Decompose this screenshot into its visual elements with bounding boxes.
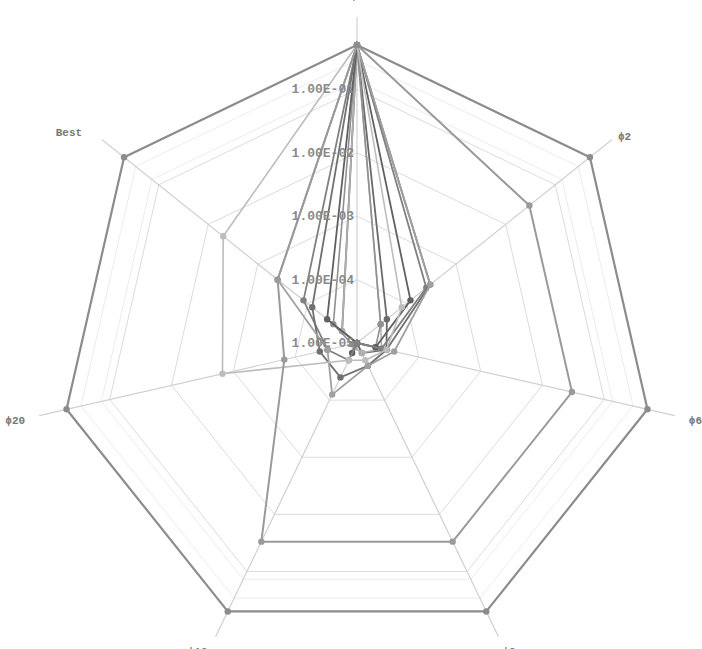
- axis-label: ϕ20: [5, 415, 25, 427]
- data-point: [324, 316, 330, 322]
- data-point: [274, 276, 280, 282]
- data-point: [121, 154, 127, 160]
- data-point: [483, 608, 489, 614]
- data-point: [427, 281, 433, 287]
- data-point: [63, 406, 69, 412]
- data-point: [346, 357, 352, 363]
- data-point: [569, 389, 575, 395]
- data-point: [526, 202, 532, 208]
- radar-tick-labels: 1.00E-051.00E-041.00E-031.00E-021.00E-01: [292, 82, 355, 351]
- data-point: [225, 608, 231, 614]
- data-point: [359, 350, 365, 356]
- data-point: [362, 357, 368, 363]
- tick-label: 1.00E-02: [292, 146, 355, 161]
- data-point: [449, 538, 455, 544]
- data-point: [258, 538, 264, 544]
- data-point: [354, 340, 360, 346]
- tick-label: 1.00E-01: [292, 82, 355, 97]
- data-point: [383, 347, 389, 353]
- data-point: [300, 297, 306, 303]
- tick-label: 1.00E-05: [292, 336, 355, 351]
- data-point: [384, 316, 390, 322]
- tick-label: 1.00E-03: [292, 209, 355, 224]
- radar-axes: [39, 17, 675, 637]
- axis-label: ϕ2: [618, 131, 631, 143]
- data-point: [377, 321, 383, 327]
- data-point: [399, 304, 405, 310]
- data-point: [407, 297, 413, 303]
- data-point: [365, 363, 371, 369]
- radar-chart: 1.00E-051.00E-041.00E-031.00E-021.00E-01…: [0, 0, 702, 649]
- data-point: [644, 406, 650, 412]
- data-point: [587, 154, 593, 160]
- axis-spoke: [216, 343, 357, 637]
- data-point: [220, 233, 226, 239]
- axis-spoke: [357, 343, 498, 637]
- axis-spoke: [102, 140, 357, 343]
- axis-label: ϕ6: [689, 415, 702, 427]
- axis-label: ϕ1: [350, 0, 364, 2]
- data-point: [354, 42, 360, 48]
- data-point: [337, 374, 343, 380]
- tick-label: 1.00E-04: [292, 273, 355, 288]
- data-point: [309, 304, 315, 310]
- axis-label: Best: [56, 127, 82, 139]
- data-point: [391, 348, 397, 354]
- data-point: [219, 371, 225, 377]
- data-point: [329, 391, 335, 397]
- data-point: [281, 356, 287, 362]
